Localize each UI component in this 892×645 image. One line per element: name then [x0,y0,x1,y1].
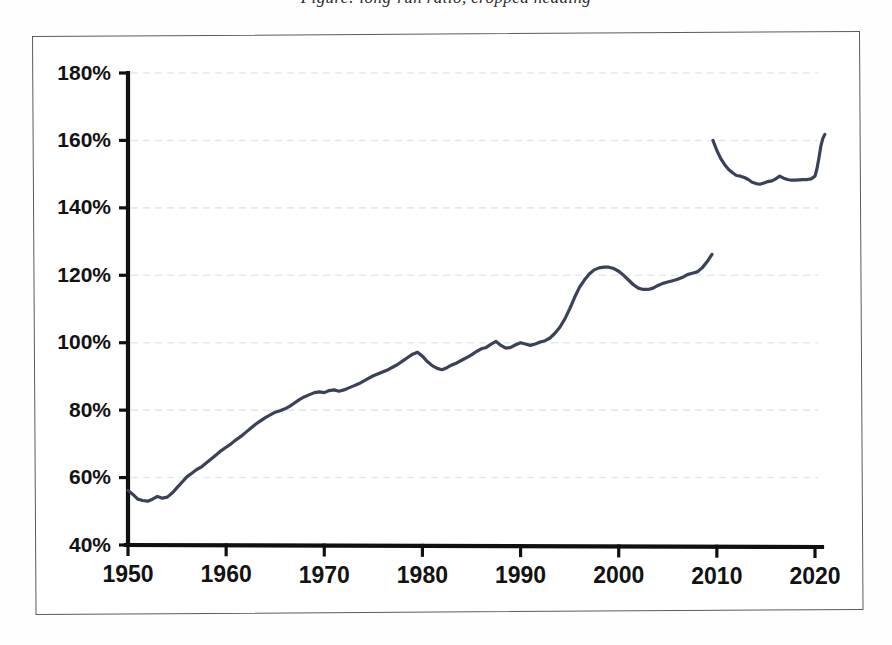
figure-page: Figure: long-run ratio, cropped heading … [0,0,892,645]
y-axis-tick-labels: 40%60%80%100%120%140%160%180% [57,61,111,556]
series-line [128,254,712,501]
tick-marks [119,73,815,558]
series-line-tail [713,134,825,184]
x-axis-tick-label: 1960 [201,561,252,587]
y-axis-tick-label: 140% [57,195,111,218]
gridlines [131,73,818,478]
data-series [128,134,825,501]
x-axis-tick-labels: 19501960197019801990200020102020 [102,561,840,589]
y-axis-tick-label: 160% [57,128,111,151]
y-axis-tick-label: 80% [69,398,111,421]
line-chart: 40%60%80%100%120%140%160%180% 1950196019… [0,0,892,645]
axes [126,73,822,547]
y-axis-tick-label: 180% [57,61,111,84]
x-axis-tick-label: 1950 [102,561,153,587]
x-axis-tick-label: 1970 [299,562,350,588]
y-axis-tick-label: 100% [57,330,111,353]
x-axis-tick-label: 1980 [397,562,448,588]
y-axis-tick-label: 60% [69,465,111,488]
x-axis-tick-label: 2010 [691,563,742,589]
x-axis-tick-label: 2020 [789,563,840,589]
y-axis-tick-label: 120% [57,263,111,286]
x-axis-tick-label: 2000 [593,562,644,588]
y-axis-tick-label: 40% [69,533,111,556]
chart-container: 40%60%80%100%120%140%160%180% 1950196019… [0,0,892,645]
x-axis-tick-label: 1990 [495,562,546,588]
